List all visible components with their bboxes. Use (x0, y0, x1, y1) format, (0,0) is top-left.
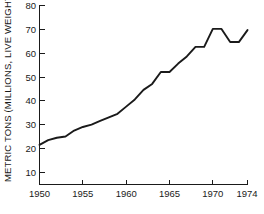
y-tick-label-80: 80 (25, 0, 36, 11)
data-series-line (40, 29, 248, 145)
y-tick-label-30: 30 (25, 119, 36, 130)
x-tick-label-1950: 1950 (29, 188, 50, 199)
y-axis-title: METRIC TONS (MILLIONS, LIVE WEIGHT) (2, 0, 13, 182)
x-tick-label-1970: 1970 (202, 188, 223, 199)
chart-figure: METRIC TONS (MILLIONS, LIVE WEIGHT) 80 7… (0, 0, 264, 214)
x-axis-ticks: 1950 1955 1960 1965 1970 1974 (29, 180, 258, 200)
x-tick-label-1965: 1965 (159, 188, 180, 199)
y-tick-label-10: 10 (25, 167, 36, 178)
x-tick-label-1974: 1974 (236, 188, 257, 199)
y-tick-label-40: 40 (25, 95, 36, 106)
y-tick-label-70: 70 (25, 24, 36, 35)
y-axis-ticks: 80 70 60 50 40 30 20 10 (25, 0, 44, 178)
line-chart: METRIC TONS (MILLIONS, LIVE WEIGHT) 80 7… (0, 0, 264, 214)
y-tick-label-20: 20 (25, 143, 36, 154)
y-tick-label-50: 50 (25, 72, 36, 83)
y-tick-label-60: 60 (25, 48, 36, 59)
x-tick-label-1960: 1960 (116, 188, 137, 199)
x-tick-label-1955: 1955 (72, 188, 93, 199)
